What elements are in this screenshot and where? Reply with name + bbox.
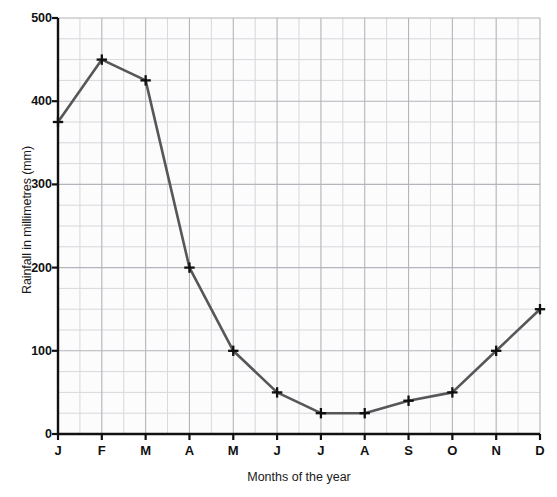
plot-area [0, 0, 557, 497]
rainfall-line-chart: Rainfall in millimetres (mm) 01002003004… [0, 0, 557, 497]
x-axis-title: Months of the year [58, 470, 540, 484]
grid-minor-lines [58, 18, 540, 434]
